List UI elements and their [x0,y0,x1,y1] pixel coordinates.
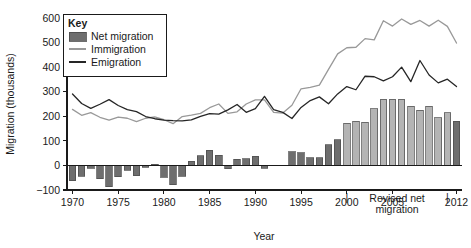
y-tick-label-100: 100 [42,135,60,147]
bar-1998 [325,145,332,166]
bar-1981 [170,165,177,184]
bar-1997 [316,158,323,166]
bar-1999 [334,140,341,166]
x-tick-label-1990: 1990 [244,196,268,208]
y-tick-label--100: −100 [36,184,60,196]
legend-swatch-net-migration [69,32,86,41]
bar-1994 [289,152,296,166]
bar-1982 [179,165,186,176]
bar-1983 [188,161,195,165]
bar-2012 [453,121,460,165]
bar-2000 [344,123,351,165]
bar-2010 [435,118,442,166]
x-tick-label-1970: 1970 [61,196,85,208]
y-tick-label-600: 600 [42,12,60,24]
bar-1995 [298,153,305,166]
bar-1987 [225,165,232,168]
legend-label-immigration: Immigration [91,43,146,55]
x-tick-label-1980: 1980 [152,196,176,208]
bar-2005 [389,99,396,165]
y-tick-label-200: 200 [42,110,60,122]
revised-annotation-line2: migration [375,203,418,215]
bar-1990 [252,156,259,165]
y-tick-label-300: 300 [42,85,60,97]
bar-1971 [78,165,85,176]
x-tick-label-1995: 1995 [289,196,313,208]
legend-label-emigration: Emigration [91,56,141,68]
bar-2003 [371,109,378,166]
bar-2002 [362,122,369,165]
bar-1970 [69,165,76,180]
migration-chart-figure: 6005004003002001000−100 1970197519801985… [0,0,471,248]
chart-legend: Key Net migration Immigration Emigration [63,14,166,76]
bar-2006 [398,99,405,165]
legend-title: Key [68,17,87,29]
legend-label-net-migration: Net migration [91,30,154,42]
bar-1974 [106,165,113,186]
x-axis-title-text: Year [253,230,275,242]
revised-range-marker-end: | [446,191,449,203]
bar-1973 [97,165,104,178]
y-tick-label-400: 400 [42,61,60,73]
bar-1984 [197,156,204,166]
bar-2008 [417,110,424,165]
y-axis-title: Migration (thousands) [4,53,16,155]
chart-canvas: 6005004003002001000−100 1970197519801985… [0,0,471,248]
bar-1989 [243,159,250,166]
y-tick-label-0: 0 [54,159,60,171]
bar-1977 [133,165,140,175]
x-tick-label-1975: 1975 [107,196,131,208]
bar-2007 [408,106,415,165]
bar-1980 [161,165,168,177]
bar-2001 [353,121,360,165]
bar-1986 [215,155,222,165]
y-tick-label-500: 500 [42,36,60,48]
bar-1985 [206,150,213,165]
bar-1975 [115,165,122,177]
bar-1996 [307,158,314,166]
bar-2009 [426,106,433,165]
bar-1976 [124,165,131,170]
bar-1988 [234,159,241,165]
x-tick-label-1985: 1985 [198,196,222,208]
y-axis-title-text: Migration (thousands) [4,53,16,155]
x-axis-title: Year [253,230,275,242]
revised-range-marker-start: | [345,191,348,203]
bar-2004 [380,99,387,165]
bar-2011 [444,113,451,166]
